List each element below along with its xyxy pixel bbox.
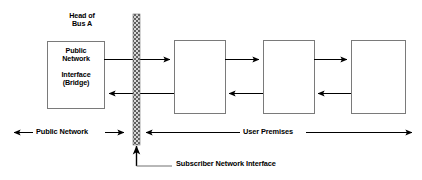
network-architecture-diagram: Head of Bus A Public Network Interface (…: [0, 0, 422, 180]
node-box-2: [264, 41, 315, 114]
node-box-3: [352, 41, 406, 114]
head-of-bus-line2: Bus A: [72, 19, 92, 28]
public-network-demarcation-label: Public Network: [36, 128, 88, 137]
pni-line4: (Bridge): [63, 78, 90, 87]
head-of-bus-label: Head of Bus A: [56, 12, 108, 29]
public-network-interface-label: Public Network Interface (Bridge): [50, 47, 102, 88]
subscriber-network-interface-callout-label: Subscriber Network Interface: [176, 160, 276, 169]
pni-line2: Network: [62, 54, 90, 63]
subscriber-network-interface-bar: [133, 14, 140, 145]
node-box-1: [175, 41, 226, 114]
user-premises-demarcation-label: User Premises: [243, 128, 293, 137]
